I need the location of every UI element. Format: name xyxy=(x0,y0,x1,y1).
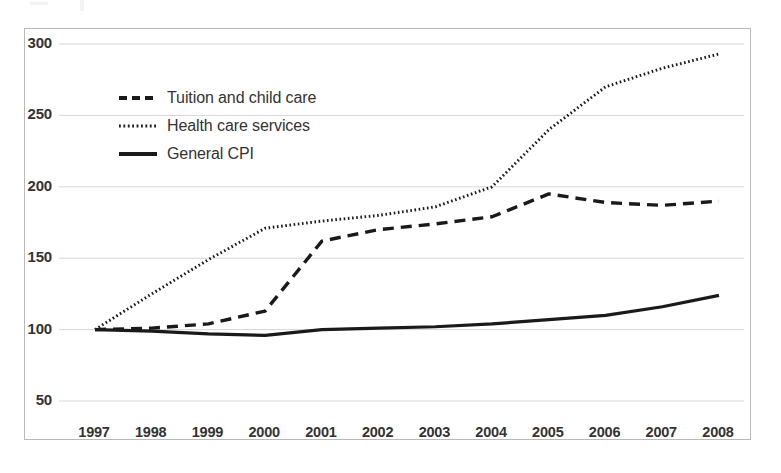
series-line-0 xyxy=(95,194,719,330)
x-tick-label: 2001 xyxy=(293,424,349,440)
x-tick-label: 2008 xyxy=(690,424,746,440)
x-tick-label: 2002 xyxy=(350,424,406,440)
y-tick-label: 150 xyxy=(8,248,52,265)
x-tick-label: 2000 xyxy=(236,424,292,440)
y-tick-label: 250 xyxy=(8,105,52,122)
y-tick-label: 200 xyxy=(8,177,52,194)
legend-swatch-solid-icon xyxy=(118,147,158,161)
line-chart-figure: 50100150200250300 1997199819992000200120… xyxy=(0,0,781,473)
chart-legend: Tuition and child careHealth care servic… xyxy=(118,84,388,168)
scan-artifact xyxy=(18,0,138,12)
legend-item: Health care services xyxy=(118,112,388,140)
legend-label: General CPI xyxy=(167,145,254,163)
y-tick-label: 300 xyxy=(8,34,52,51)
x-tick-label: 1998 xyxy=(123,424,179,440)
legend-item: General CPI xyxy=(118,140,388,168)
x-tick-label: 2005 xyxy=(520,424,576,440)
x-tick-label: 1999 xyxy=(179,424,235,440)
x-tick-label: 2004 xyxy=(463,424,519,440)
y-tick-label: 50 xyxy=(8,391,52,408)
legend-swatch-dashed-icon xyxy=(118,91,158,105)
y-tick-label: 100 xyxy=(8,320,52,337)
legend-label: Tuition and child care xyxy=(167,89,316,107)
legend-item: Tuition and child care xyxy=(118,84,388,112)
x-tick-label: 2003 xyxy=(406,424,462,440)
legend-label: Health care services xyxy=(167,117,310,135)
legend-swatch-dotted-icon xyxy=(118,119,158,133)
x-tick-label: 1997 xyxy=(66,424,122,440)
x-tick-label: 2006 xyxy=(577,424,633,440)
x-tick-label: 2007 xyxy=(633,424,689,440)
